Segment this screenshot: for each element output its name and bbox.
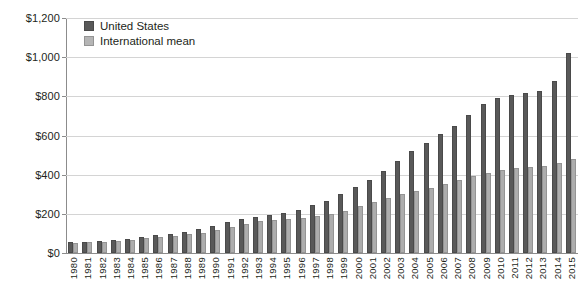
legend-swatch-icon-united-states <box>84 21 94 31</box>
bar-international-mean <box>400 194 405 253</box>
bar-international-mean <box>443 184 448 253</box>
x-tick-label: 1991 <box>225 257 236 279</box>
bar-group <box>379 18 393 253</box>
x-tick-label: 1992 <box>239 257 250 279</box>
bar-international-mean <box>215 230 220 253</box>
x-tick-label: 1995 <box>281 257 292 279</box>
bar-group <box>564 18 578 253</box>
bar-group <box>336 18 350 253</box>
bar-group <box>265 18 279 253</box>
y-tick-label: $600 <box>35 130 60 142</box>
bar-international-mean <box>272 220 277 253</box>
bar-international-mean <box>230 227 235 253</box>
bar-international-mean <box>73 243 78 253</box>
bar-chart: $0$200$400$600$800$1,000$1,200 198019811… <box>0 0 587 295</box>
x-tick-label: 2002 <box>381 257 392 279</box>
bar-international-mean <box>244 224 249 253</box>
legend-swatch-icon-international-mean <box>84 36 94 46</box>
y-tick-label: $1,200 <box>26 12 60 24</box>
bar-group <box>507 18 521 253</box>
bar-group <box>279 18 293 253</box>
bar-group <box>94 18 108 253</box>
legend-item-international-mean: International mean <box>84 35 195 47</box>
bar-international-mean <box>315 216 320 253</box>
x-tick-label: 2010 <box>495 257 506 279</box>
chart-legend: United States International mean <box>84 20 195 50</box>
y-tick-label: $1,000 <box>26 51 60 63</box>
x-tick-label: 1996 <box>296 257 307 279</box>
x-tick-label: 1988 <box>182 257 193 279</box>
x-tick-label: 1981 <box>82 257 93 279</box>
x-tick-label: 1994 <box>267 257 278 279</box>
x-tick-label: 2013 <box>537 257 548 279</box>
bar-group <box>464 18 478 253</box>
x-tick-label: 2008 <box>466 257 477 279</box>
bar-international-mean <box>158 237 163 253</box>
bar-group <box>137 18 151 253</box>
bar-group <box>308 18 322 253</box>
plot-area <box>66 18 578 253</box>
x-tick-label: 1982 <box>97 257 108 279</box>
bar-international-mean <box>372 202 377 253</box>
legend-item-united-states: United States <box>84 20 195 32</box>
x-tick-label: 1993 <box>253 257 264 279</box>
bar-group <box>294 18 308 253</box>
bar-international-mean <box>343 211 348 253</box>
bar-group <box>180 18 194 253</box>
y-tick-label: $200 <box>35 208 60 220</box>
x-tick-label: 2001 <box>367 257 378 279</box>
x-tick-label: 2000 <box>353 257 364 279</box>
bar-international-mean <box>471 176 476 253</box>
bar-group <box>535 18 549 253</box>
x-tick-label: 1986 <box>153 257 164 279</box>
bar-international-mean <box>571 159 576 253</box>
bar-international-mean <box>528 167 533 253</box>
x-tick-label: 1998 <box>324 257 335 279</box>
bar-international-mean <box>87 242 92 253</box>
x-tick-label: 1983 <box>111 257 122 279</box>
bar-group <box>393 18 407 253</box>
bar-international-mean <box>500 170 505 253</box>
x-tick-label: 1987 <box>168 257 179 279</box>
bar-international-mean <box>116 241 121 253</box>
x-tick-label: 1985 <box>139 257 150 279</box>
bar-international-mean <box>144 238 149 253</box>
bar-international-mean <box>386 198 391 253</box>
x-tick-label: 1984 <box>125 257 136 279</box>
bar-international-mean <box>258 221 263 253</box>
x-tick-label: 1980 <box>68 257 79 279</box>
x-tick-label: 2011 <box>509 257 520 279</box>
bar-international-mean <box>557 163 562 253</box>
bar-group <box>493 18 507 253</box>
bar-international-mean <box>201 233 206 253</box>
bar-group <box>151 18 165 253</box>
bar-international-mean <box>102 242 107 253</box>
bar-group <box>109 18 123 253</box>
y-tick-label: $0 <box>48 247 60 259</box>
bar-international-mean <box>542 166 547 253</box>
bar-group <box>407 18 421 253</box>
bar-group <box>208 18 222 253</box>
x-tick-label: 2009 <box>481 257 492 279</box>
bar-international-mean <box>514 168 519 253</box>
bar-group <box>66 18 80 253</box>
bar-group <box>222 18 236 253</box>
bar-international-mean <box>429 188 434 253</box>
x-tick-label: 2014 <box>552 257 563 279</box>
bar-group <box>436 18 450 253</box>
bar-group <box>422 18 436 253</box>
bar-international-mean <box>486 173 491 253</box>
bar-group <box>237 18 251 253</box>
bar-international-mean <box>130 240 135 253</box>
x-tick-label: 2003 <box>395 257 406 279</box>
bar-international-mean <box>457 180 462 253</box>
bar-international-mean <box>286 219 291 253</box>
x-tick-label: 1990 <box>210 257 221 279</box>
bar-international-mean <box>358 206 363 253</box>
legend-label-international-mean: International mean <box>100 35 195 47</box>
bar-group <box>123 18 137 253</box>
bar-group <box>350 18 364 253</box>
x-tick-label: 2006 <box>438 257 449 279</box>
bar-group <box>521 18 535 253</box>
x-tick-label: 2005 <box>424 257 435 279</box>
